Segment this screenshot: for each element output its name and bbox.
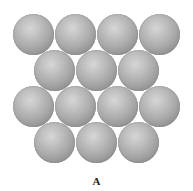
sphere-packing-diagram [0,0,193,191]
sphere [34,122,75,163]
sphere [76,50,117,91]
sphere [13,86,54,127]
sphere [139,14,180,55]
sphere [118,122,159,163]
sphere [55,14,96,55]
sphere [13,14,54,55]
sphere [55,86,96,127]
figure-label: A [0,175,193,187]
sphere [139,86,180,127]
sphere [34,50,75,91]
sphere [76,122,117,163]
sphere [97,86,138,127]
sphere [118,50,159,91]
sphere [97,14,138,55]
